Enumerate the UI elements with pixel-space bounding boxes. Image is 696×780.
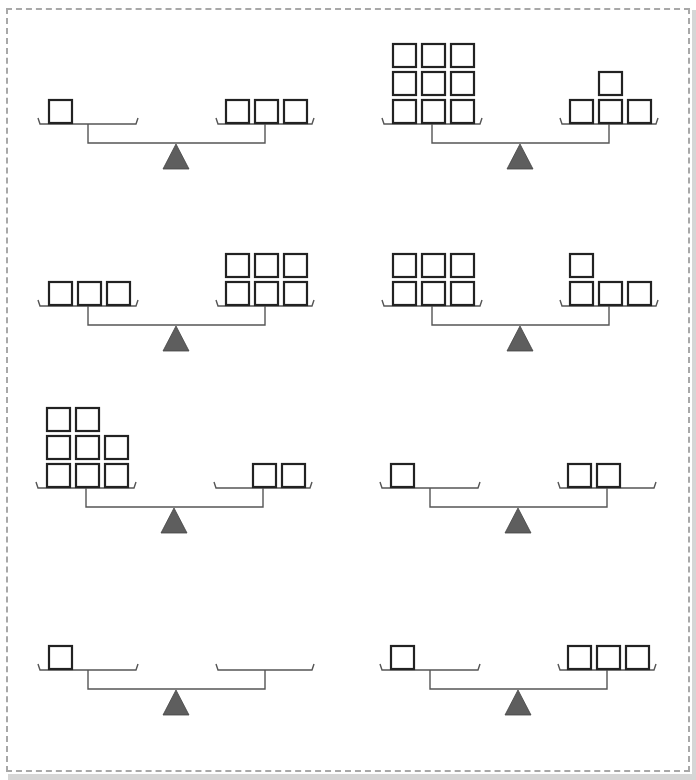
- weight-box: [599, 100, 622, 123]
- weight-box: [76, 464, 99, 487]
- weight-box: [597, 646, 620, 669]
- weight-box: [451, 254, 474, 277]
- balance-scale-1: [38, 100, 314, 169]
- weight-box: [391, 646, 414, 669]
- weight-box: [76, 436, 99, 459]
- right-weights: [226, 254, 307, 305]
- weight-box: [599, 72, 622, 95]
- weight-box: [226, 254, 249, 277]
- balance-scale-2: [382, 44, 658, 169]
- left-weights: [393, 44, 474, 123]
- left-weights: [393, 254, 474, 305]
- weight-box: [451, 44, 474, 67]
- fulcrum-triangle-icon: [161, 508, 187, 533]
- beam: [432, 306, 609, 325]
- beam: [88, 124, 265, 143]
- left-weights: [391, 464, 414, 487]
- weight-box: [570, 100, 593, 123]
- weight-box: [253, 464, 276, 487]
- weight-box: [49, 100, 72, 123]
- balance-scale-7: [38, 646, 314, 715]
- weight-box: [47, 436, 70, 459]
- weight-box: [393, 254, 416, 277]
- weight-box: [570, 282, 593, 305]
- weight-box: [255, 282, 278, 305]
- weight-box: [255, 254, 278, 277]
- fulcrum-triangle-icon: [163, 144, 189, 169]
- left-weights: [49, 100, 72, 123]
- beam: [88, 670, 265, 689]
- beam: [430, 670, 607, 689]
- left-weights: [391, 646, 414, 669]
- beam: [86, 488, 263, 507]
- right-weights: [570, 254, 651, 305]
- balance-scale-8: [380, 646, 656, 715]
- weight-box: [107, 282, 130, 305]
- left-weights: [47, 408, 128, 487]
- weight-box: [451, 282, 474, 305]
- weight-box: [628, 100, 651, 123]
- weight-box: [393, 100, 416, 123]
- weight-box: [76, 408, 99, 431]
- weight-box: [599, 282, 622, 305]
- weight-box: [284, 282, 307, 305]
- weight-box: [226, 282, 249, 305]
- weight-box: [628, 282, 651, 305]
- fulcrum-triangle-icon: [163, 690, 189, 715]
- weight-box: [255, 100, 278, 123]
- weight-box: [597, 464, 620, 487]
- weight-box: [568, 646, 591, 669]
- left-weights: [49, 646, 72, 669]
- right-weights: [570, 72, 651, 123]
- weight-box: [422, 282, 445, 305]
- weight-box: [284, 100, 307, 123]
- right-weights: [568, 646, 649, 669]
- weight-box: [226, 100, 249, 123]
- right-weights: [226, 100, 307, 123]
- beam: [430, 488, 607, 507]
- beam: [88, 306, 265, 325]
- weight-box: [422, 72, 445, 95]
- weight-box: [422, 44, 445, 67]
- weight-box: [284, 254, 307, 277]
- balance-scales-canvas: [0, 0, 696, 780]
- weight-box: [105, 436, 128, 459]
- weight-box: [393, 282, 416, 305]
- right-pan: [216, 664, 314, 670]
- weight-box: [282, 464, 305, 487]
- weight-box: [422, 100, 445, 123]
- weight-box: [626, 646, 649, 669]
- right-weights: [253, 464, 305, 487]
- weight-box: [393, 72, 416, 95]
- weight-box: [47, 464, 70, 487]
- left-weights: [49, 282, 130, 305]
- balance-scale-5: [36, 408, 312, 533]
- fulcrum-triangle-icon: [505, 508, 531, 533]
- weight-box: [570, 254, 593, 277]
- weight-box: [422, 254, 445, 277]
- fulcrum-triangle-icon: [507, 144, 533, 169]
- fulcrum-triangle-icon: [507, 326, 533, 351]
- balance-scale-4: [382, 254, 658, 351]
- balance-scale-3: [38, 254, 314, 351]
- weight-box: [391, 464, 414, 487]
- weight-box: [78, 282, 101, 305]
- beam: [432, 124, 609, 143]
- right-weights: [568, 464, 620, 487]
- weight-box: [47, 408, 70, 431]
- weight-box: [568, 464, 591, 487]
- weight-box: [451, 100, 474, 123]
- weight-box: [105, 464, 128, 487]
- fulcrum-triangle-icon: [163, 326, 189, 351]
- weight-box: [393, 44, 416, 67]
- weight-box: [451, 72, 474, 95]
- balance-scale-6: [380, 464, 656, 533]
- weight-box: [49, 646, 72, 669]
- weight-box: [49, 282, 72, 305]
- fulcrum-triangle-icon: [505, 690, 531, 715]
